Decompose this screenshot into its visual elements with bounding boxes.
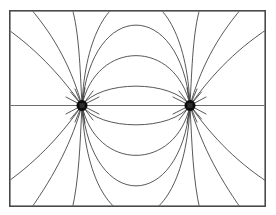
dipole-field-figure bbox=[0, 0, 276, 215]
field-line-canvas bbox=[0, 0, 276, 215]
border-rectangle bbox=[10, 11, 265, 206]
right-pole-core bbox=[187, 103, 192, 108]
left-pole-core bbox=[79, 103, 84, 108]
